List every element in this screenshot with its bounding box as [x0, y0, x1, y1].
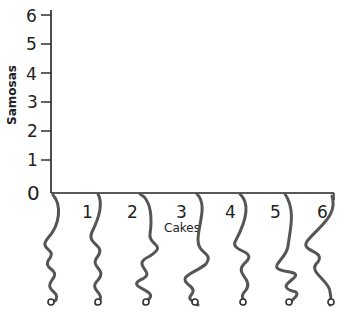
y-tick-label-3: 3	[27, 92, 38, 112]
string-3	[185, 194, 208, 305]
y-tick-label-5: 5	[26, 34, 37, 54]
string-4	[235, 194, 249, 304]
y-tick-label-1: 1	[27, 150, 38, 170]
y-tick-label-6: 6	[26, 6, 37, 26]
string-0	[45, 195, 59, 304]
loop-icon	[286, 299, 292, 305]
y-tick-label-4: 4	[26, 64, 37, 84]
loop-icon	[192, 299, 198, 305]
x-axis-title: Cakes	[164, 221, 200, 235]
chart-canvas: 1 2 3 4 5 6 0 Samosas 1 2 3 4 5 6 Cakes	[0, 0, 349, 325]
origin-label: 0	[27, 181, 40, 205]
loop-icon	[328, 299, 334, 305]
string-2	[137, 194, 158, 304]
x-tick-label-4: 4	[225, 202, 236, 222]
x-tick-label-3: 3	[176, 202, 187, 222]
loop-icon	[240, 299, 246, 305]
x-tick-label-5: 5	[270, 202, 281, 222]
y-ticks	[41, 15, 51, 160]
loop-icon	[48, 299, 54, 305]
y-tick-label-2: 2	[27, 121, 38, 141]
y-axis-title: Samosas	[5, 65, 19, 125]
loop-icon	[143, 299, 149, 305]
x-tick-label-1: 1	[82, 202, 93, 222]
loop-icon	[95, 299, 101, 305]
x-tick-label-2: 2	[127, 202, 138, 222]
